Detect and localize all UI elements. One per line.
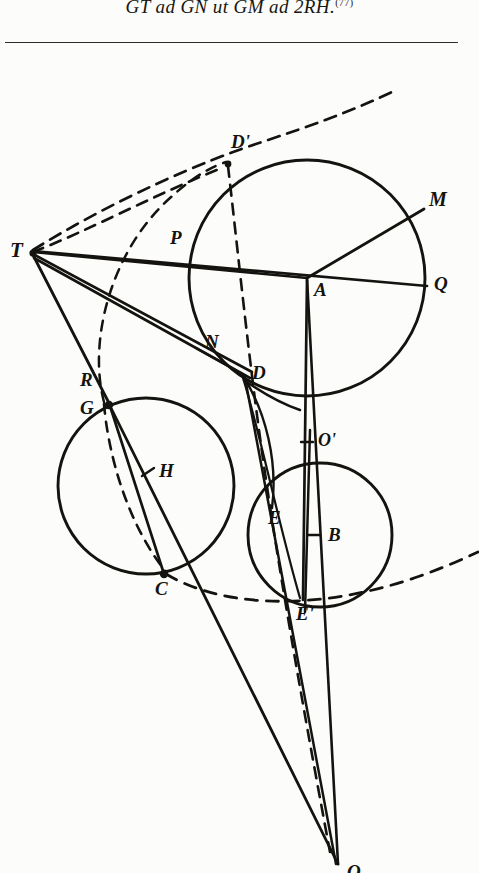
line-A-O <box>307 278 338 864</box>
geometric-figure: T P D' M A Q N R G D H O' E B C E' O <box>0 52 479 873</box>
label-C: C <box>155 578 168 599</box>
line-G-C <box>110 406 164 574</box>
line-D-O <box>245 378 336 864</box>
label-H: H <box>158 460 175 481</box>
label-T: T <box>10 238 24 262</box>
label-E: E <box>267 507 281 528</box>
point-marker-C <box>160 570 168 578</box>
label-G: G <box>80 397 94 418</box>
label-Op: O' <box>318 430 336 450</box>
label-Q: Q <box>434 273 448 294</box>
footnote-marker: (77) <box>335 0 353 8</box>
horizontal-rule <box>5 42 458 43</box>
line-N-D <box>196 348 246 376</box>
label-O: O <box>347 861 361 873</box>
line-T-D-upper <box>33 254 252 372</box>
dash-T-Dp <box>33 168 222 252</box>
dash-left-oval <box>99 162 226 402</box>
point-marker-Dp <box>225 161 232 168</box>
label-D: D <box>251 362 266 383</box>
line-T-Q <box>33 251 427 286</box>
label-M: M <box>428 188 448 210</box>
label-P: P <box>169 227 182 248</box>
formula-text: GT ad GN ut GM ad 2RH. <box>126 0 336 17</box>
label-B: B <box>327 524 341 545</box>
point-marker-T <box>29 249 36 256</box>
line-M-A <box>307 209 424 278</box>
label-R: R <box>79 369 93 390</box>
label-A: A <box>313 279 327 300</box>
point-marker-G <box>105 401 113 409</box>
formula-line: GT ad GN ut GM ad 2RH.(77) <box>0 0 479 22</box>
left-circle-H <box>58 398 234 574</box>
label-Ep: E' <box>295 603 314 624</box>
line-T-A <box>33 252 307 278</box>
label-Dp: D' <box>230 131 250 152</box>
label-N: N <box>204 331 220 352</box>
